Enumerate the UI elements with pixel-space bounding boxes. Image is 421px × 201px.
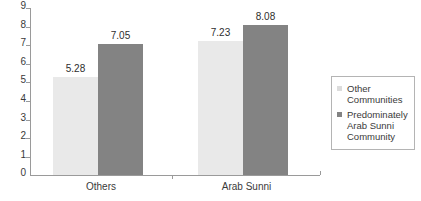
chart-legend: Other Communities Predominately Arab Sun… <box>331 76 415 150</box>
y-axis-tick-mark <box>26 120 30 121</box>
bar-value-label: 8.08 <box>243 11 288 22</box>
bar-value-label: 5.28 <box>53 63 98 74</box>
x-axis-end-cap <box>320 171 321 175</box>
x-axis-start-cap <box>30 171 31 175</box>
x-axis-line <box>30 175 320 176</box>
y-axis-tick-mark <box>26 8 30 9</box>
y-axis-tick-label: 5 <box>20 75 26 85</box>
legend-item-predominately-arab-sunni[interactable]: Predominately Arab Sunni Community <box>337 109 410 142</box>
y-axis-tick-label: 2 <box>20 131 26 141</box>
y-axis-tick-label: 8 <box>20 20 26 30</box>
legend-item-other-communities[interactable]: Other Communities <box>337 83 410 105</box>
x-axis-category-label-others: Others <box>30 181 172 193</box>
y-axis-tick-mark <box>26 138 30 139</box>
x-axis-category-label-arab-sunni: Arab Sunni <box>173 181 320 193</box>
y-axis-tick-label: 1 <box>20 150 26 160</box>
y-axis-tick-mark <box>26 157 30 158</box>
bar-value-label: 7.23 <box>198 27 243 38</box>
y-axis-tick-label: 6 <box>20 57 26 67</box>
y-axis-tick-mark <box>26 64 30 65</box>
y-axis-tick-mark <box>26 45 30 46</box>
legend-item-label: Predominately Arab Sunni Community <box>347 109 410 142</box>
y-axis-tick-mark <box>26 27 30 28</box>
y-axis-tick-mark <box>26 82 30 83</box>
y-axis-tick-label: 4 <box>20 94 26 104</box>
bar-others-other-communities <box>53 77 98 175</box>
bar-arab-sunni-predominately-arab-sunni <box>243 25 288 175</box>
bar-arab-sunni-other-communities <box>198 41 243 175</box>
bar-chart: 9 8 7 6 5 4 3 2 1 0 5.28 7.05 7.23 <box>0 0 421 201</box>
y-axis-tick-label: 7 <box>20 38 26 48</box>
y-axis-line <box>30 8 31 175</box>
y-axis-tick-label: 0 <box>20 168 26 178</box>
y-axis-tick-label: 3 <box>20 113 26 123</box>
x-axis-group-divider <box>172 175 173 179</box>
legend-swatch-icon <box>337 86 342 91</box>
bar-others-predominately-arab-sunni <box>98 44 143 175</box>
legend-item-label: Other Communities <box>347 83 410 105</box>
legend-swatch-icon <box>337 112 342 117</box>
y-axis-tick-mark <box>26 101 30 102</box>
bar-value-label: 7.05 <box>98 30 143 41</box>
y-axis-tick-label: 9 <box>20 1 26 11</box>
